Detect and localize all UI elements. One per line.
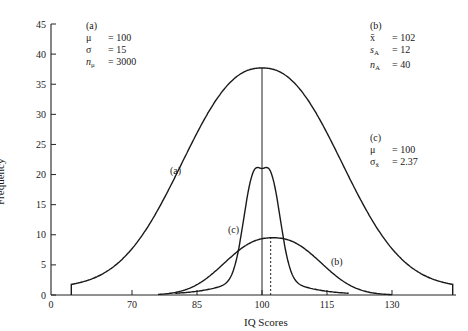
curve-a-label: (a): [170, 165, 181, 176]
xbar-symbol: x̄: [370, 32, 392, 44]
n-value: = 3000: [108, 56, 136, 71]
y-axis-label: Frequency: [0, 159, 6, 205]
n-value: = 40: [392, 59, 410, 74]
s-value: = 12: [392, 44, 410, 59]
annotation-c: (c) μ= 100 σx̄= 2.37: [370, 132, 418, 171]
y-tick-label: 15: [36, 199, 46, 210]
x-tick-label: 70: [127, 299, 137, 310]
y-tick-label: 10: [36, 229, 46, 240]
sigma-value: = 2.37: [392, 156, 418, 171]
y-tick-label: 5: [41, 259, 46, 270]
x-tick-label: 100: [255, 299, 270, 310]
reference-lines: [262, 68, 271, 295]
annotation-a: (a) μ= 100 σ= 15 nμ= 3000: [86, 20, 136, 71]
annotation-c-title: (c): [370, 132, 418, 144]
x-tick-label: 85: [192, 299, 202, 310]
y-tick-label: 30: [36, 109, 46, 120]
sigma-subscript: x̄: [375, 161, 379, 169]
annotation-b: (b) x̄= 102 sA= 12 nA= 40: [370, 20, 415, 74]
mu-value: = 100: [392, 144, 415, 156]
y-ticks: 051015202530354045: [36, 19, 56, 301]
x-axis-label: IQ Scores: [244, 316, 288, 328]
curve-b-label: (b): [331, 256, 343, 267]
x-tick-label: 0: [49, 299, 54, 310]
y-tick-label: 20: [36, 169, 46, 180]
n-subscript: A: [375, 64, 380, 72]
y-tick-label: 45: [36, 19, 46, 30]
sigma-symbol: σ: [86, 44, 108, 56]
mu-symbol: μ: [86, 32, 108, 44]
x-tick-label: 130: [384, 299, 399, 310]
mu-value: = 100: [108, 32, 131, 44]
n-subscript: μ: [91, 61, 95, 69]
mu-symbol: μ: [370, 144, 392, 156]
y-tick-label: 40: [36, 49, 46, 60]
y-tick-label: 0: [41, 290, 46, 301]
annotation-b-title: (b): [370, 20, 415, 32]
curve-b: [158, 238, 392, 295]
sigma-value: = 15: [108, 44, 126, 56]
curve-c-label: (c): [228, 224, 239, 235]
y-tick-label: 25: [36, 139, 46, 150]
s-subscript: A: [374, 49, 379, 57]
y-tick-label: 35: [36, 79, 46, 90]
x-tick-label: 115: [320, 299, 335, 310]
annotation-a-title: (a): [86, 20, 136, 32]
xbar-value: = 102: [392, 32, 415, 44]
